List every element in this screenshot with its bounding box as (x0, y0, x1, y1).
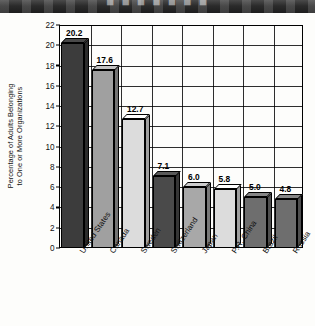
y-axis-tick: 16 (45, 81, 60, 90)
y-axis-tick-label: 18 (45, 61, 54, 70)
bar-top-face (153, 171, 180, 176)
bar-value-label: 6.0 (184, 172, 200, 182)
y-axis-tick-label: 22 (45, 21, 54, 30)
bar-chart-figure: ■ ■ ■ ■ ■ ■ ■ Percentage of Adults Belon… (0, 0, 315, 326)
bar-value-label: 5.0 (245, 182, 261, 192)
y-axis-tick: 2 (50, 223, 60, 232)
y-axis-title-line1: Percentage of Adults Belonging (6, 84, 15, 189)
y-axis-tick-label: 10 (45, 142, 54, 151)
y-axis-tick: 6 (50, 183, 60, 192)
y-axis-tick-label: 4 (50, 203, 55, 212)
y-axis-title: Percentage of Adults Belonging to One or… (2, 20, 28, 252)
bar-value-label: 12.7 (123, 104, 143, 114)
bar-side-face (84, 38, 89, 248)
bar-front-face (61, 43, 84, 248)
y-axis-tick-label: 12 (45, 122, 54, 131)
y-axis-tick-label: 6 (50, 183, 55, 192)
bar-value-label: 7.1 (154, 161, 170, 171)
y-axis-tick-label: 20 (45, 41, 54, 50)
bar-value-label: 20.2 (62, 28, 82, 38)
bar-value-label: 5.8 (215, 174, 231, 184)
y-axis-tick: 22 (45, 21, 60, 30)
y-axis-tick: 20 (45, 41, 60, 50)
header-band-text: ■ ■ ■ ■ ■ ■ ■ (0, 0, 315, 9)
y-axis-tick: 18 (45, 61, 60, 70)
bar-top-face (92, 65, 119, 70)
bar-value-label: 4.8 (276, 184, 292, 194)
bar-series: 20.217.612.77.16.05.85.04.8 (60, 25, 303, 248)
y-axis-tick-label: 0 (50, 244, 55, 253)
y-axis-tick: 4 (50, 203, 60, 212)
plot-area: 0246810121416182022 20.217.612.77.16.05.… (59, 25, 303, 248)
y-axis-tick: 14 (45, 102, 60, 111)
page-header-band: ■ ■ ■ ■ ■ ■ ■ (0, 0, 315, 13)
y-axis-tick-label: 14 (45, 102, 54, 111)
bar-top-face (214, 184, 241, 189)
bar-side-face (114, 65, 119, 248)
bar-united-states: 20.2 (61, 43, 84, 248)
y-axis-tick-label: 16 (45, 81, 54, 90)
y-axis-tick-label: 2 (50, 223, 55, 232)
bar-side-face (145, 114, 150, 248)
y-axis-tick: 12 (45, 122, 60, 131)
x-axis-labels: United StatesCanadaSwedenSwitzerlandJapa… (59, 250, 303, 324)
y-axis-title-line2: to One or More Organizations (15, 21, 24, 251)
y-axis-tick: 8 (50, 162, 60, 171)
y-axis-tick-label: 8 (50, 162, 55, 171)
y-axis-tick: 10 (45, 142, 60, 151)
bar-value-label: 17.6 (93, 55, 113, 65)
bar-top-face (275, 194, 302, 199)
